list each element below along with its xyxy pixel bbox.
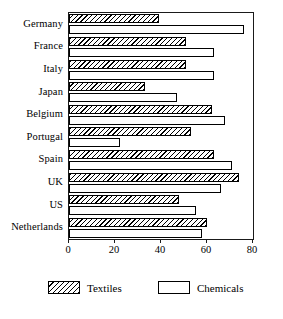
bar-italy-textiles [69,60,186,69]
bar-spain-textiles [69,150,214,159]
y-label-uk: UK [48,176,63,187]
x-tick [68,240,69,243]
bars-layer [69,13,253,239]
bar-us-textiles [69,195,179,204]
bar-group [69,218,253,238]
x-tick [206,240,207,243]
y-label-japan: Japan [39,86,63,97]
legend-entry-textiles: Textiles [48,281,122,294]
bar-italy-chemicals [69,71,214,80]
y-label-netherlands: Netherlands [11,221,63,232]
x-tick-label-0: 0 [65,244,70,256]
bar-group [69,82,253,102]
x-axis: 020406080 [68,240,254,262]
bar-france-textiles [69,37,186,46]
bar-belgium-chemicals [69,116,225,125]
bar-portugal-textiles [69,127,191,136]
bar-group [69,127,253,147]
bar-group [69,60,253,80]
bar-netherlands-textiles [69,218,207,227]
bar-group [69,195,253,215]
bar-germany-chemicals [69,25,244,34]
y-label-spain: Spain [39,153,63,164]
y-label-portugal: Portugal [27,131,63,142]
x-tick-label-40: 40 [155,244,166,256]
legend-label-textiles: Textiles [87,282,122,294]
x-tick-label-20: 20 [109,244,120,256]
bar-group [69,14,253,34]
x-tick-label-80: 80 [247,244,258,256]
legend-entry-chemicals: Chemicals [158,281,243,294]
bar-group [69,173,253,193]
legend-swatch-chemicals-icon [158,281,190,294]
bar-germany-textiles [69,14,159,23]
y-label-france: France [34,40,63,51]
bar-uk-textiles [69,173,239,182]
y-label-us: US [49,199,63,210]
bar-us-chemicals [69,206,196,215]
x-tick [252,240,253,243]
x-tick-label-60: 60 [201,244,212,256]
bar-group [69,150,253,170]
bar-japan-textiles [69,82,145,91]
x-tick [114,240,115,243]
bar-portugal-chemicals [69,138,120,147]
y-label-belgium: Belgium [26,108,63,119]
bar-japan-chemicals [69,93,177,102]
x-tick [160,240,161,243]
chart-legend: Textiles Chemicals [48,281,266,303]
bar-spain-chemicals [69,161,232,170]
bar-france-chemicals [69,48,214,57]
bar-netherlands-chemicals [69,229,202,238]
y-axis-category-labels: GermanyFranceItalyJapanBelgiumPortugalSp… [0,12,66,240]
plot-area [68,12,254,240]
legend-label-chemicals: Chemicals [197,282,243,294]
bar-belgium-textiles [69,105,212,114]
bar-chart: GermanyFranceItalyJapanBelgiumPortugalSp… [0,0,283,319]
bar-group [69,105,253,125]
bar-uk-chemicals [69,184,221,193]
bar-group [69,37,253,57]
y-label-germany: Germany [23,18,63,29]
y-label-italy: Italy [43,63,63,74]
legend-swatch-textiles-icon [48,281,80,294]
